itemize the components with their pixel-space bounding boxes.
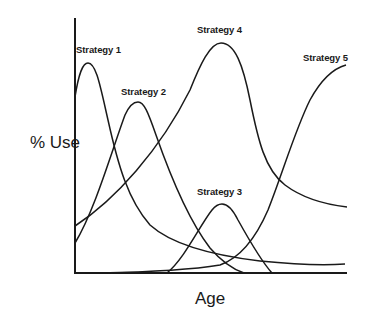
label-strategy-5: Strategy 5 [303,52,348,63]
y-axis-label: % Use [30,133,80,153]
label-strategy-4: Strategy 4 [197,24,242,35]
label-strategy-1: Strategy 1 [76,44,121,55]
label-strategy-2: Strategy 2 [121,86,166,97]
curve-strategy-4 [75,43,347,226]
curve-strategy-3 [85,204,272,273]
label-strategy-3: Strategy 3 [197,186,242,197]
chart-plot [0,0,366,324]
x-axis-label: Age [195,289,225,309]
curve-strategy-1 [75,63,345,265]
